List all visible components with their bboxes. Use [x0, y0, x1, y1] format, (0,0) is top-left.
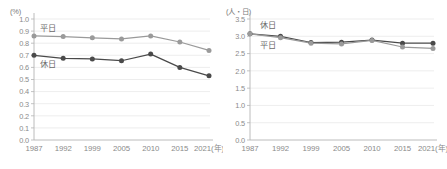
y-tick-label: 0.8	[19, 39, 29, 48]
data-point-marker	[400, 45, 405, 50]
x-tick-label: 2015	[394, 144, 412, 153]
data-point-marker	[339, 41, 344, 46]
y-tick-label: 1.5	[235, 84, 245, 93]
y-tick-label: 2.5	[235, 49, 245, 58]
x-tick-label: 2010	[142, 144, 160, 153]
figure-caption-strip	[0, 162, 447, 169]
chart-panel-left: (%) 0.00.10.20.30.40.50.60.70.80.91.0198…	[0, 0, 223, 169]
series-annotation-label: 休日	[40, 59, 56, 69]
data-point-marker	[61, 34, 66, 39]
x-tick-label: 2005	[333, 144, 351, 153]
x-tick-label: 2005	[113, 144, 131, 153]
data-point-marker	[90, 35, 95, 40]
x-tick-label: 1987	[242, 144, 259, 153]
x-tick-label: 1987	[26, 144, 43, 153]
data-point-marker	[61, 56, 66, 61]
data-point-marker	[32, 53, 37, 58]
y-tick-label: 2.0	[235, 67, 245, 76]
series-line	[34, 54, 209, 76]
data-point-marker	[148, 52, 153, 57]
y-tick-label: 3.5	[235, 15, 245, 24]
y-tick-label: 0.9	[19, 27, 29, 36]
y-tick-label: 0.7	[19, 51, 29, 60]
data-point-marker	[207, 48, 212, 53]
data-point-marker	[90, 56, 95, 61]
data-point-marker	[278, 35, 283, 40]
x-tick-label: 2021(年)	[418, 143, 447, 153]
y-tick-label: 1.0	[235, 101, 245, 110]
y-tick-label: 0.6	[19, 63, 29, 72]
y-tick-label: 1.0	[19, 15, 29, 24]
y-tick-label: 3.0	[235, 32, 245, 41]
data-point-marker	[309, 41, 314, 46]
data-point-marker	[32, 33, 37, 38]
x-tick-label: 2015	[171, 144, 189, 153]
data-point-marker	[431, 41, 436, 46]
x-tick-label: 2021(年)	[194, 143, 223, 153]
y-tick-label: 0.4	[19, 87, 29, 96]
data-point-marker	[119, 58, 124, 63]
series-annotation-label: 平日	[40, 24, 56, 33]
x-tick-label: 1999	[84, 144, 101, 153]
two-panel-line-chart-figure: (%) 0.00.10.20.30.40.50.60.70.80.91.0198…	[0, 0, 447, 169]
line-plot-right: 0.00.51.01.52.02.53.03.51987199219992005…	[224, 0, 447, 169]
data-point-marker	[207, 73, 212, 78]
data-point-marker	[431, 46, 436, 51]
x-tick-label: 1999	[303, 144, 320, 153]
y-tick-label: 0.5	[235, 119, 245, 128]
y-tick-label: 0.3	[19, 100, 29, 109]
x-tick-label: 1992	[272, 144, 289, 153]
y-tick-label: 0.5	[19, 75, 29, 84]
data-point-marker	[177, 39, 182, 44]
x-tick-label: 2010	[364, 144, 382, 153]
series-annotation-label: 休日	[260, 20, 276, 30]
data-point-marker	[248, 31, 253, 36]
y-tick-label: 0.2	[19, 112, 29, 121]
series-annotation-label: 平日	[260, 41, 276, 50]
chart-panel-right: (人・日) 0.00.51.01.52.02.53.03.51987199219…	[224, 0, 447, 169]
data-point-marker	[370, 38, 375, 43]
x-tick-label: 1992	[55, 144, 72, 153]
line-plot-left: 0.00.10.20.30.40.50.60.70.80.91.01987199…	[0, 0, 223, 169]
data-point-marker	[119, 36, 124, 41]
y-tick-label: 0.1	[19, 124, 29, 133]
data-point-marker	[177, 65, 182, 70]
data-point-marker	[148, 33, 153, 38]
